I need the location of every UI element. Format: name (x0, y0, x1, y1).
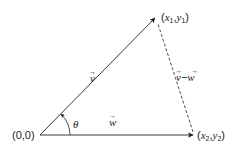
vector-diagram: (0,0) (x1,y1) (x2,y2) v → w → θ v−w → → (0, 0, 238, 148)
origin-label: (0,0) (12, 129, 35, 141)
vector-v-line (40, 18, 155, 135)
vector-v-minus-w-arrow-w-icon: → (191, 67, 198, 74)
point-1-label: (x1,y1) (161, 11, 189, 24)
angle-theta-arc (61, 114, 70, 135)
point-2-label: (x2,y2) (197, 129, 225, 142)
angle-theta-label: θ (73, 118, 79, 130)
vector-v-minus-w-arrow-v-icon: → (175, 67, 182, 74)
vector-w-arrow-icon: → (109, 112, 116, 119)
vector-v-arrow-icon: → (89, 68, 96, 75)
